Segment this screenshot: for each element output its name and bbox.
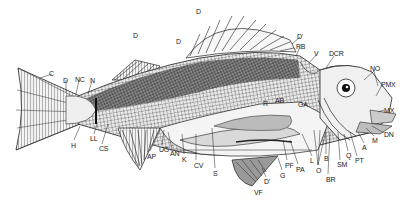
anatomy-label-m: M <box>372 137 378 144</box>
fish-anatomy-figure: DDDD'RBVDCRNOPMXMXDNCDNCNABRGAHLLCSAPUGA… <box>0 0 409 204</box>
anatomy-label-a: A <box>362 144 366 151</box>
anatomy-label-no: NO <box>370 65 380 72</box>
anatomy-label-d5: D <box>63 77 68 84</box>
anatomy-label-cs: CS <box>99 145 108 152</box>
fish-illustration <box>0 0 409 204</box>
anatomy-label-d2: D <box>133 32 138 39</box>
anatomy-label-d3: D <box>176 38 181 45</box>
anatomy-label-ga: GA <box>298 101 308 108</box>
anatomy-label-h: H <box>71 142 76 149</box>
anatomy-label-d1: D <box>196 8 201 15</box>
anatomy-label-mx: MX <box>384 107 394 114</box>
anatomy-label-d4: D' <box>297 33 303 40</box>
anatomy-label-b: B <box>324 155 328 162</box>
anatomy-label-an: AN <box>170 150 179 157</box>
anatomy-label-ap: AP <box>147 153 156 160</box>
anatomy-label-nc: NC <box>75 76 85 83</box>
anatomy-label-ll: LL <box>90 135 97 142</box>
anatomy-label-br: BR <box>326 176 335 183</box>
anatomy-label-o: O <box>316 167 321 174</box>
anatomy-label-pf: PF <box>285 162 294 169</box>
anatomy-label-r: R <box>263 100 268 107</box>
anatomy-label-c: C <box>49 70 54 77</box>
anatomy-label-cv: CV <box>194 162 203 169</box>
anatomy-label-q: Q <box>346 152 351 159</box>
anatomy-label-g: G <box>280 172 285 179</box>
anatomy-label-dcr: DCR <box>329 50 344 57</box>
anatomy-label-ab: AB <box>275 97 284 104</box>
anatomy-label-pa: PA <box>296 166 304 173</box>
anatomy-label-vf: VF <box>254 189 263 196</box>
anatomy-label-ug: UG <box>159 146 169 153</box>
anatomy-label-sm: SM <box>337 161 347 168</box>
anatomy-label-l: L <box>310 157 314 164</box>
anatomy-label-s: S <box>213 170 217 177</box>
anatomy-label-pmx: PMX <box>381 81 396 88</box>
anatomy-label-k: K <box>182 156 186 163</box>
anatomy-label-d6: D' <box>264 178 270 185</box>
anatomy-label-rb: RB <box>296 43 305 50</box>
anatomy-label-n: N <box>90 77 95 84</box>
anatomy-label-v: V <box>314 50 318 57</box>
anatomy-label-pt: PT <box>355 157 364 164</box>
anatomy-label-dn: DN <box>384 131 394 138</box>
